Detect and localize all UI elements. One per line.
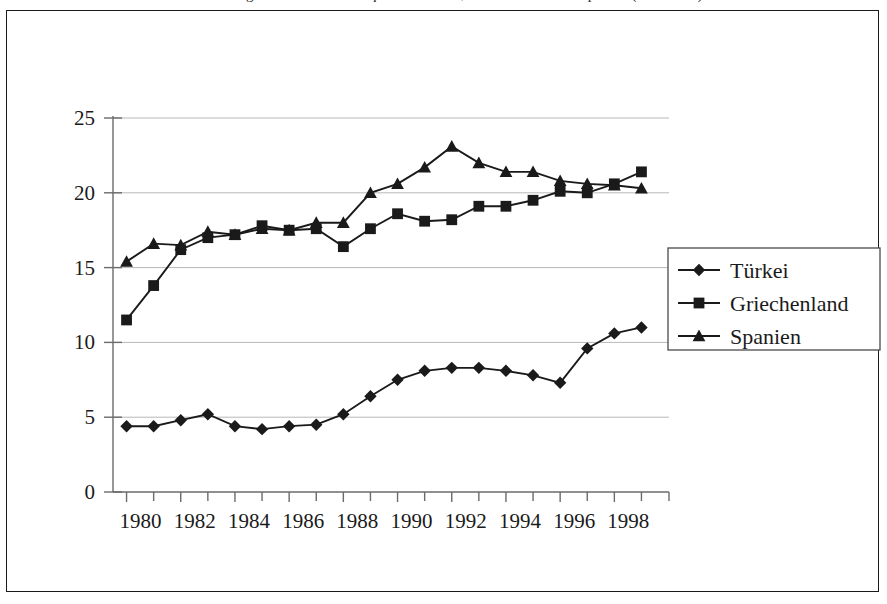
y-tick-label-5: 5 (85, 405, 96, 429)
x-tick-label-1996: 1996 (553, 509, 595, 533)
data-point-0-1985 (256, 423, 268, 435)
data-point-1-1991 (419, 216, 430, 227)
data-point-0-1983 (202, 408, 214, 420)
data-point-1-1992 (446, 214, 457, 225)
data-point-2-1992 (445, 140, 458, 152)
x-tick-label-1984: 1984 (228, 509, 271, 533)
x-tick-label-1988: 1988 (336, 509, 378, 533)
data-point-1-1989 (365, 223, 376, 234)
series-line-2 (127, 146, 642, 261)
x-axis-ticks: 1980198219841986198819901992199419961998 (120, 492, 669, 533)
y-tick-label-0: 0 (85, 480, 96, 504)
x-tick-label-1986: 1986 (282, 509, 324, 533)
data-point-1-1996 (555, 186, 566, 197)
data-point-2-1990 (391, 177, 404, 189)
data-point-0-1980 (120, 420, 132, 432)
x-tick-label-1982: 1982 (174, 509, 216, 533)
chart-figure: Abbildung: Bruttoinvestitionsquote in Tü… (0, 0, 887, 604)
data-point-0-1984 (229, 420, 241, 432)
data-point-2-1980 (120, 255, 133, 267)
x-tick-label-1998: 1998 (607, 509, 649, 533)
data-point-2-1983 (201, 225, 214, 237)
x-tick-label-1990: 1990 (391, 509, 433, 533)
data-point-1-1993 (473, 201, 484, 212)
data-point-1-1988 (338, 241, 349, 252)
legend-marker-square (694, 298, 705, 309)
data-point-0-1992 (446, 362, 458, 374)
axes-group (113, 116, 669, 492)
data-point-1-1981 (148, 280, 159, 291)
data-point-1-1990 (392, 208, 403, 219)
series-türkei (120, 321, 647, 435)
x-tick-label-1980: 1980 (120, 509, 162, 533)
series-griechenland (121, 166, 647, 325)
data-point-0-1994 (500, 365, 512, 377)
x-tick-label-1994: 1994 (499, 509, 542, 533)
data-point-1-1999 (636, 166, 647, 177)
line-chart-plot: 0510152025198019821984198619881990199219… (0, 0, 887, 604)
data-point-1-1994 (501, 201, 512, 212)
y-axis-ticks: 0510152025 (74, 106, 122, 504)
data-point-0-1999 (635, 321, 647, 333)
data-point-0-1998 (608, 327, 620, 339)
series-spanien (120, 140, 648, 267)
data-point-1-1995 (528, 195, 539, 206)
data-point-0-1995 (527, 369, 539, 381)
data-point-0-1988 (337, 408, 349, 420)
y-tick-label-25: 25 (74, 106, 95, 130)
data-point-0-1990 (391, 374, 403, 386)
data-point-0-1987 (310, 418, 322, 430)
data-point-0-1981 (147, 420, 159, 432)
data-point-0-1991 (418, 365, 430, 377)
x-tick-label-1992: 1992 (445, 509, 487, 533)
data-point-0-1986 (283, 420, 295, 432)
legend: TürkeiGriechenlandSpanien (668, 248, 880, 350)
y-tick-label-20: 20 (74, 181, 95, 205)
y-tick-label-10: 10 (74, 330, 95, 354)
data-point-2-1993 (472, 156, 485, 168)
data-point-0-1989 (364, 390, 376, 402)
data-point-1-1980 (121, 315, 132, 326)
y-tick-label-15: 15 (74, 256, 95, 280)
legend-label-0: Türkei (730, 258, 789, 283)
legend-label-2: Spanien (730, 324, 801, 349)
legend-label-1: Griechenland (730, 291, 849, 316)
data-point-0-1982 (175, 414, 187, 426)
data-point-0-1993 (473, 362, 485, 374)
gridlines-group (113, 118, 669, 417)
